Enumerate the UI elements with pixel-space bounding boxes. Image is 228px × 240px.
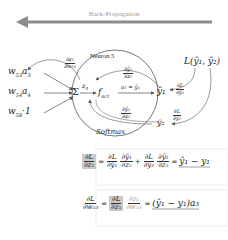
sum-symbol: Σ	[72, 86, 79, 97]
neuron-title: Neuron 5	[90, 52, 114, 59]
input-w54-a4: w54a4	[8, 86, 31, 98]
z5-label: z5	[82, 82, 88, 91]
dy1-dz5-fraction: ∂ŷ₁∂z₅	[121, 96, 131, 119]
weight-gradient-fraction: ∂z₅∂w₅₃	[63, 46, 77, 69]
dy2-dz5-fraction: ∂ŷ₂∂z₅	[123, 56, 133, 79]
a5-equals-y1: a₅ = ŷ₁	[121, 84, 140, 90]
input-w58-bias: w58·1	[8, 106, 31, 118]
y2-hat: ŷ₂	[157, 118, 165, 127]
softmax-label: Softmax	[96, 128, 125, 136]
equation-dL-dz5: ∂L∂z₅ = ∂L∂ŷ₁ ∂ŷ₁∂z₅ + ∂L∂ŷ₂ ∂ŷ₂∂z₅ = ŷ₁…	[82, 154, 210, 169]
input-w53-a3: w53a3	[8, 66, 31, 78]
dL-dy1-fraction: ∂L∂ŷ₁	[175, 72, 185, 95]
activation-function: fact	[98, 87, 109, 99]
loss-function: L(ŷ₁, ŷ₂)	[184, 56, 220, 66]
y1-hat: ŷ₁	[157, 86, 166, 96]
dL-dy2-fraction: ∂L∂ŷ₂	[172, 98, 182, 121]
equation-dL-dw53: ∂L∂w₅₃ = ∂L∂z₅ ∂z₅∂w₅₃ = (ŷ₁ − y₁)a₃	[82, 196, 199, 211]
